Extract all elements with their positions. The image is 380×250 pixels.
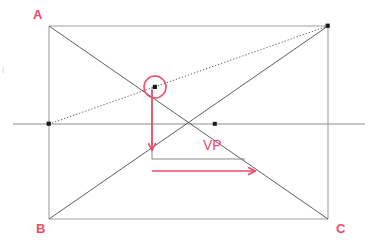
label-corner-a: A [33,7,43,22]
label-corner-b: B [36,221,45,236]
dotted-construction-line [49,26,328,124]
label-vanishing-point: VP [203,137,222,153]
diagram-canvas: A B C VP [0,0,380,250]
perspective-diagram: A B C VP [0,0,380,250]
point-dot-circled [153,85,157,89]
point-dot-left-horizon [47,122,51,126]
point-dot-top-right [326,24,330,28]
label-corner-c: C [336,221,346,236]
point-dot-vanishing [213,122,217,126]
